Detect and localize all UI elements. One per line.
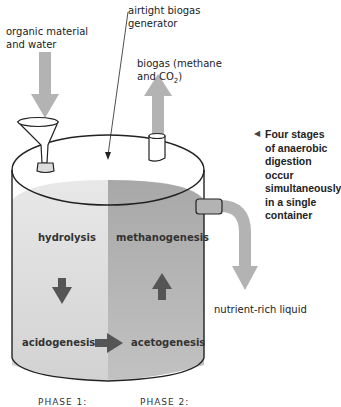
stage-hydrolysis: hydrolysis <box>38 232 96 243</box>
liquid-fill <box>12 180 204 400</box>
note-marker-icon: ◀ <box>254 129 260 138</box>
generator-pointer <box>108 12 128 155</box>
stage-methanogenesis: methanogenesis <box>116 232 209 243</box>
liquid-outlet <box>196 199 258 290</box>
biogas-label: biogas (methane and CO2) <box>137 57 257 88</box>
phase-1-label: PHASE 1: <box>38 397 87 407</box>
output-label: nutrient-rich liquid <box>214 303 307 316</box>
stage-acetogenesis: acetogenesis <box>131 337 205 348</box>
phase-2-label: PHASE 2: <box>140 397 189 407</box>
funnel <box>18 118 58 173</box>
biogas-label-close: ) <box>178 71 182 82</box>
biogas-label-line2: and CO <box>137 71 174 82</box>
biogas-label-line1: biogas (methane <box>137 58 222 69</box>
input-arrow <box>31 52 59 118</box>
stage-acidogenesis: acidogenesis <box>22 337 95 348</box>
note-text: Four stages of anaerobic digestion occur… <box>265 128 337 223</box>
input-label: organic material and water <box>6 25 106 51</box>
generator-label: airtight biogas generator <box>128 4 218 30</box>
